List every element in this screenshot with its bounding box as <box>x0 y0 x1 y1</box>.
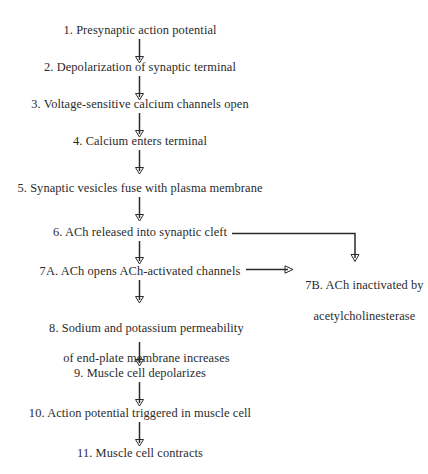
arrow-4-5 <box>136 150 144 174</box>
arrow-9-10 <box>136 382 144 406</box>
step-10: 10. Action potential triggered in muscle… <box>0 406 280 421</box>
arrow-10-11 <box>136 422 144 446</box>
arrow-6-7a <box>136 241 144 264</box>
step-9: 9. Muscle cell depolarizes <box>0 366 280 381</box>
step-7a: 7A. ACh opens ACh-activated channels <box>0 264 280 279</box>
step-7b-line-1: 7B. ACh inactivated by <box>305 278 424 292</box>
arrow-7a-8 <box>136 280 144 303</box>
flowchart: 1. Presynaptic action potential 2. Depol… <box>0 0 428 474</box>
step-4: 4. Calcium enters terminal <box>0 134 280 149</box>
step-2: 2. Depolarization of synaptic terminal <box>0 60 280 75</box>
arrow-5-6 <box>136 197 144 221</box>
step-8-line-1: 8. Sodium and potassium permeability <box>49 321 244 335</box>
step-6: 6. ACh released into synaptic cleft <box>0 225 280 240</box>
step-5: 5. Synaptic vesicles fuse with plasma me… <box>0 181 280 196</box>
step-7b-line-2: acetylcholinesterase <box>314 309 416 323</box>
step-3: 3. Voltage-sensitive calcium channels op… <box>0 97 280 112</box>
step-11: 11. Muscle cell contracts <box>0 446 280 461</box>
step-8-line-2: of end-plate membrane increases <box>63 351 230 365</box>
step-1: 1. Presynaptic action potential <box>0 23 280 38</box>
step-7b: 7B. ACh inactivated by acetylcholinester… <box>288 262 428 340</box>
